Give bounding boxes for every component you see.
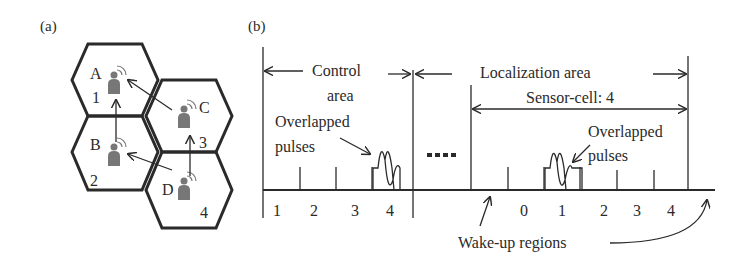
cell-3-number: 3 — [199, 134, 207, 151]
loc-slot-0: 0 — [520, 202, 528, 219]
control-slot-1: 1 — [273, 202, 281, 219]
sensor-c-icon — [178, 100, 196, 128]
overlapped-left-label-1: Overlapped — [275, 113, 350, 131]
overlapped-pulses-control — [373, 152, 400, 190]
sensor-d-icon — [178, 172, 196, 200]
loc-slot-2: 2 — [600, 202, 608, 219]
control-slot-4: 4 — [386, 202, 394, 219]
overlapped-right-label-1: Overlapped — [588, 123, 663, 141]
sensor-a-icon — [108, 66, 126, 94]
overlapped-right-label-2: pulses — [588, 147, 628, 165]
loc-slot-3: 3 — [633, 202, 641, 219]
cell-4-number: 4 — [200, 204, 208, 221]
overlapped-left-label-2: pulses — [275, 138, 315, 156]
sensor-b-icon — [108, 138, 126, 166]
panel-a-label: (a) — [40, 18, 57, 35]
control-slot-2: 2 — [310, 202, 318, 219]
control-slot-3: 3 — [351, 202, 359, 219]
ellipsis-icon — [427, 153, 456, 157]
node-d-label: D — [162, 181, 174, 198]
cell-1-number: 1 — [92, 89, 100, 106]
diagram-canvas: (a) A 1 B 2 C 3 D 4 — [0, 0, 752, 273]
sensor-cell-label: Sensor-cell: 4 — [526, 89, 614, 106]
wakeup-regions-label: Wake-up regions — [458, 234, 566, 252]
cell-2-number: 2 — [90, 172, 98, 189]
loc-slot-1: 1 — [558, 202, 566, 219]
node-a-label: A — [90, 65, 102, 82]
node-c-label: C — [199, 99, 210, 116]
node-b-label: B — [90, 136, 101, 153]
control-area-label-2: area — [327, 87, 354, 104]
loc-slot-4: 4 — [667, 202, 675, 219]
panel-b-label: (b) — [248, 18, 266, 35]
control-area-label-1: Control — [312, 62, 361, 79]
localization-area-label: Localization area — [480, 64, 591, 81]
